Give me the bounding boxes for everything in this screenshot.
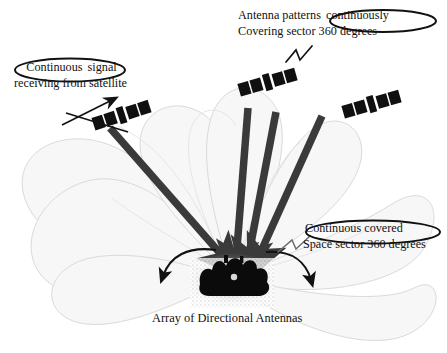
satellite-center xyxy=(237,66,298,99)
antenna-array-cluster xyxy=(184,253,280,309)
label-antenna-pattern-line2: Covering sector 360 degrees xyxy=(238,24,391,40)
antenna-coverage-diagram xyxy=(0,0,447,353)
label-antenna-pattern: Antenna patterns continuously Covering s… xyxy=(238,8,391,39)
leader-antenna-pattern-zigzag xyxy=(286,46,312,62)
label-antenna-pattern-line1: Antenna patterns continuously xyxy=(238,8,391,24)
antenna-pattern-circled-word: continuously xyxy=(324,8,391,24)
label-continuous-signal-line2: receiving from satellite xyxy=(14,76,127,92)
label-continuous-covered: Continuous covered Space sector 360 degr… xyxy=(303,221,426,252)
label-continuous-covered-line2: Space sector 360 degrees xyxy=(303,237,426,253)
continuous-signal-circled-word: Continuous xyxy=(24,60,84,76)
antenna-pattern-prefix: Antenna patterns xyxy=(238,8,324,22)
leader-continuous-signal xyxy=(62,100,112,125)
continuous-signal-suffix: signal xyxy=(85,60,117,74)
satellite-right xyxy=(341,88,402,121)
label-continuous-signal-line1: Continuous signal xyxy=(14,60,127,76)
continuous-covered-circled-text: Continuous covered xyxy=(303,221,405,237)
figure-canvas: Antenna patterns continuously Covering s… xyxy=(0,0,447,353)
label-continuous-signal: Continuous signal receiving from satelli… xyxy=(14,60,127,91)
label-array-caption: Array of Directional Antennas xyxy=(152,311,302,327)
